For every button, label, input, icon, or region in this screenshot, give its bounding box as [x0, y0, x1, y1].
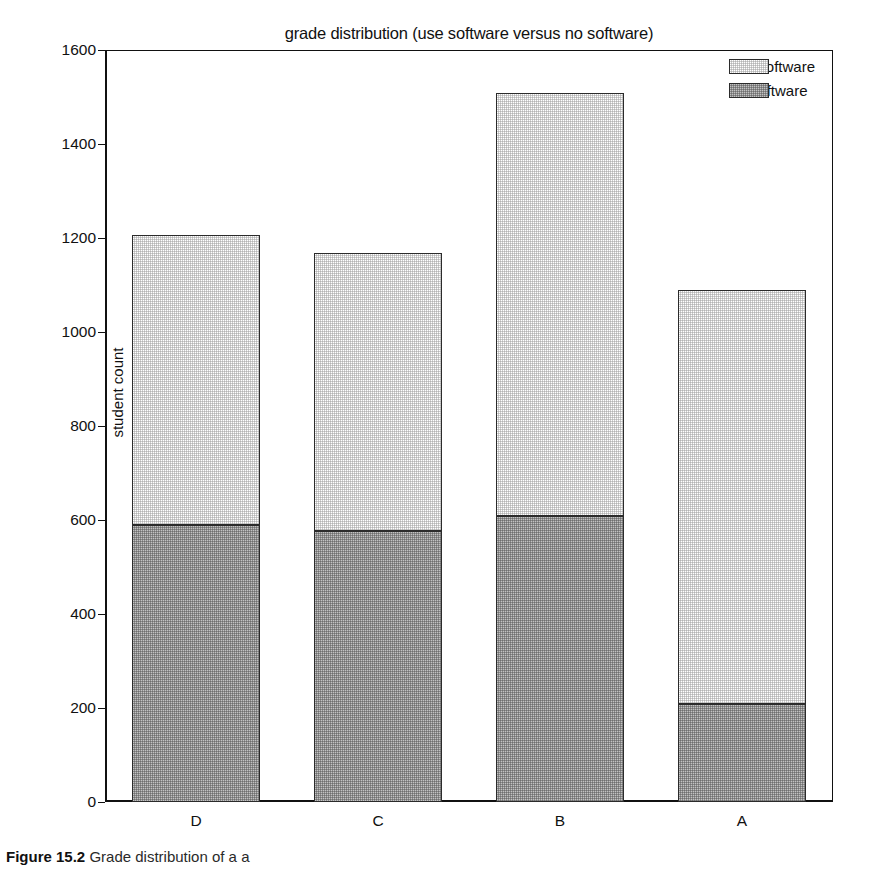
- caption-text: Grade distribution of a a: [89, 848, 249, 865]
- y-axis-title: student count: [109, 313, 126, 473]
- x-tick-label-D: D: [136, 812, 256, 830]
- x-tick-label-A: A: [682, 812, 802, 830]
- bar-segment-A-no-software: [678, 704, 805, 802]
- bar-segment-D-use-software: [132, 235, 259, 525]
- y-tick-label-1000: 1000: [36, 323, 96, 341]
- bar-segment-B-use-software: [496, 93, 623, 516]
- y-tick-label-600: 600: [36, 511, 96, 529]
- y-tick-mark-800: [98, 426, 105, 427]
- y-tick-mark-1600: [98, 50, 105, 51]
- bar-segment-B-no-software: [496, 516, 623, 802]
- bar-segment-C-use-software: [314, 253, 441, 531]
- y-tick-mark-1200: [98, 238, 105, 239]
- bar-group-B: [496, 50, 623, 802]
- y-tick-mark-400: [98, 614, 105, 615]
- legend-swatch-use-software: [729, 59, 769, 74]
- y-tick-mark-600: [98, 520, 105, 521]
- y-tick-label-1400: 1400: [36, 135, 96, 153]
- y-tick-label-0: 0: [36, 793, 96, 811]
- y-tick-mark-1400: [98, 144, 105, 145]
- bar-group-C: [314, 50, 441, 802]
- figure-container: grade distribution (use software versus …: [0, 0, 872, 869]
- bar-segment-C-no-software: [314, 531, 441, 802]
- y-tick-label-1600: 1600: [36, 41, 96, 59]
- y-tick-mark-1000: [98, 332, 105, 333]
- y-tick-label-200: 200: [36, 699, 96, 717]
- x-tick-label-C: C: [318, 812, 438, 830]
- figure-caption: Figure 15.2 Grade distribution of a a: [6, 848, 866, 865]
- chart-legend: use-software no-software: [729, 58, 815, 99]
- plot-area: student count 02004006008001000120014001…: [105, 50, 833, 802]
- bar-group-A: [678, 50, 805, 802]
- bar-segment-D-no-software: [132, 525, 259, 802]
- chart-title: grade distribution (use software versus …: [105, 24, 833, 43]
- x-tick-label-B: B: [500, 812, 620, 830]
- legend-item-no-software: no-software: [729, 82, 815, 99]
- y-tick-mark-0: [98, 802, 105, 803]
- legend-swatch-no-software: [729, 83, 769, 98]
- y-tick-label-800: 800: [36, 417, 96, 435]
- y-tick-label-400: 400: [36, 605, 96, 623]
- caption-figure-number: Figure 15.2: [6, 848, 85, 865]
- bar-segment-A-use-software: [678, 290, 805, 704]
- y-tick-mark-200: [98, 708, 105, 709]
- legend-item-use-software: use-software: [729, 58, 815, 75]
- y-tick-label-1200: 1200: [36, 229, 96, 247]
- bar-group-D: [132, 50, 259, 802]
